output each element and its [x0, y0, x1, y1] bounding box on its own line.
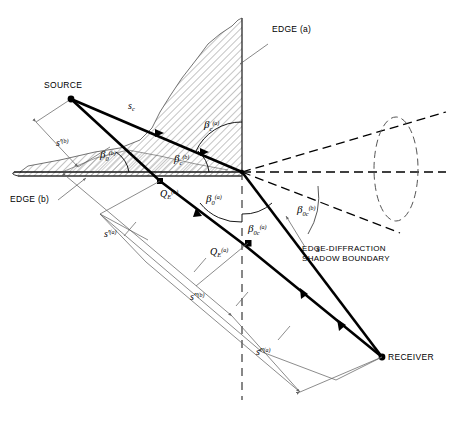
dim-s-dprime-b	[100, 214, 262, 352]
dim-to-receiver-b	[336, 357, 382, 380]
edge-a-label: EDGE (a)	[272, 24, 311, 34]
symbol-beta-c-a: βc(a)	[204, 118, 219, 132]
diffraction-cone	[242, 112, 446, 233]
apex-dot	[240, 170, 244, 174]
symbol-beta-0-a: β0(a)	[206, 192, 222, 206]
tick-mark-1	[194, 258, 206, 272]
symbol-s-prime-b: s′(b)	[56, 137, 69, 148]
symbol-beta-0-b: β0(b)	[100, 148, 116, 162]
leader-edge-a	[240, 44, 268, 64]
cone-upper-generator	[242, 112, 446, 172]
symbol-s-dprime-a: s″(a)	[256, 346, 271, 357]
symbol-s: s	[316, 243, 320, 254]
symbol-s-c: sc	[128, 100, 135, 112]
cone-cross-section-ellipse	[374, 117, 418, 221]
tick-mark-4	[278, 326, 290, 340]
arc-beta0-a	[200, 203, 242, 222]
source-label: SOURCE	[44, 80, 82, 90]
receiver-label: RECEIVER	[388, 352, 434, 362]
qe-a-dot	[245, 240, 252, 247]
symbol-s-dprime-b: s″(b)	[190, 291, 205, 302]
s-c-sub: c	[132, 105, 135, 112]
wedge-face-a	[20, 18, 242, 172]
symbol-s-prime-a: s′(a)	[104, 228, 117, 239]
dim-tick-sb-top	[36, 101, 68, 122]
dim-close-right2	[262, 352, 336, 380]
figure-canvas: SOURCE RECEIVER EDGE (a) EDGE (b) EDGE-D…	[0, 0, 450, 432]
edge-b-label: EDGE (b)	[10, 194, 49, 204]
dim-to-receiver-a	[300, 357, 382, 392]
symbol-qe-a: QE(a)	[210, 246, 228, 258]
symbol-qe-b: QE(b)	[160, 188, 178, 200]
dim-leader-qeb	[100, 181, 160, 214]
ray-apex-to-receiver-s	[242, 172, 382, 357]
source-dot	[68, 96, 75, 103]
diagram-svg	[0, 0, 450, 432]
symbol-beta-0c-b: β0c(b)	[297, 203, 316, 217]
dim-s-dprime-a-low	[146, 262, 300, 392]
symbol-beta-c-b: βc(b)	[174, 152, 189, 166]
shadow-boundary-line-2: SHADOW BOUNDARY	[302, 254, 390, 264]
symbol-beta-0c-a: β0c(a)	[248, 222, 267, 236]
s-base: s	[316, 243, 320, 254]
